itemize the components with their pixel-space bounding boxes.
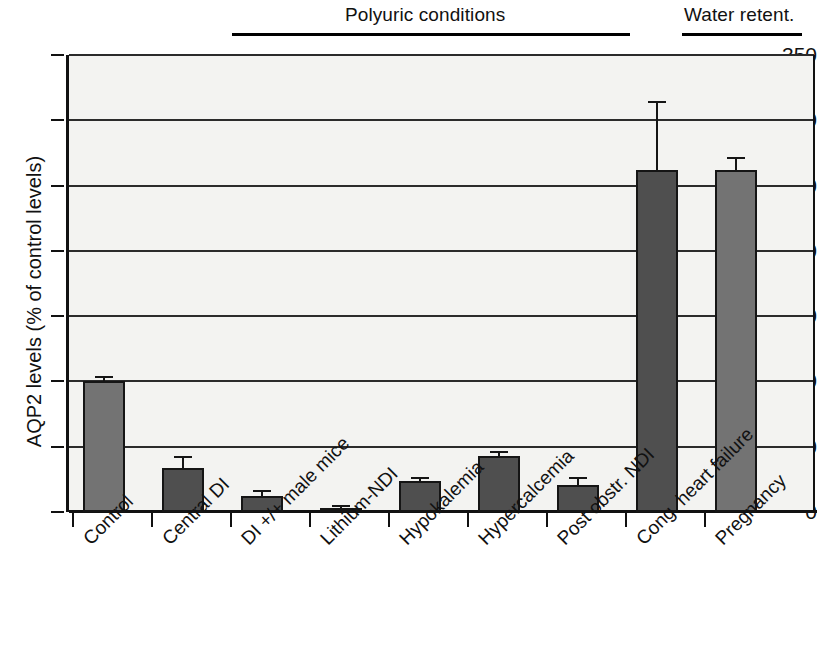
error-bar-cap — [490, 451, 508, 453]
error-bar-cap — [569, 477, 587, 479]
x-tick-mark — [309, 513, 311, 527]
x-tick-mark — [467, 513, 469, 527]
x-tick-mark — [388, 513, 390, 527]
gridline — [69, 446, 814, 448]
error-bar-stem — [656, 101, 658, 170]
y-tick-mark — [51, 119, 64, 121]
error-bar-cap — [411, 477, 429, 479]
x-tick-mark — [625, 513, 627, 527]
x-tick-mark — [704, 513, 706, 527]
group-rule-polyuric — [232, 33, 630, 36]
y-tick-mark — [51, 446, 64, 448]
y-tick-mark — [51, 380, 64, 382]
y-axis-title: AQP2 levels (% of control levels) — [23, 142, 46, 462]
gridline — [69, 54, 814, 56]
group-label-water-retention: Water retent. — [684, 4, 794, 26]
error-bar-cap — [174, 456, 192, 458]
plot-right-edge — [813, 55, 815, 512]
x-tick-mark — [72, 513, 74, 527]
x-tick-mark — [230, 513, 232, 527]
error-bar-cap — [253, 490, 271, 492]
chart-figure: Polyuric conditions Water retent. AQP2 l… — [0, 0, 817, 664]
y-tick-mark — [51, 511, 64, 513]
error-bar — [83, 376, 125, 512]
plot-inner — [69, 55, 814, 512]
y-tick-mark — [51, 315, 64, 317]
gridline — [69, 185, 814, 187]
y-tick-mark — [51, 250, 64, 252]
y-tick-mark — [51, 54, 64, 56]
y-tick-mark — [51, 185, 64, 187]
group-label-polyuric: Polyuric conditions — [345, 4, 505, 26]
error-bar-cap — [95, 376, 113, 378]
gridline — [69, 250, 814, 252]
error-bar-cap — [648, 101, 666, 103]
group-rule-water-retention — [682, 33, 802, 36]
gridline — [69, 315, 814, 317]
gridline — [69, 119, 814, 121]
gridline — [69, 380, 814, 382]
x-tick-mark — [151, 513, 153, 527]
plot-area — [66, 55, 814, 512]
error-bar-cap — [727, 157, 745, 159]
x-tick-mark — [546, 513, 548, 527]
